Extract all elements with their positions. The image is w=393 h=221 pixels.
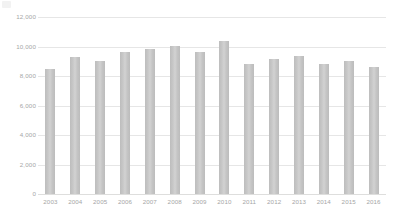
y-axis-tick-label: 0: [2, 191, 36, 197]
plot-area: [38, 17, 386, 194]
y-axis-tick-label: 2,000: [2, 162, 36, 168]
bar-chart: 12,00010,0008,0006,0004,0002,0000 200320…: [0, 0, 393, 221]
bar: [195, 52, 205, 194]
bars-layer: [38, 17, 386, 194]
y-axis-tick-label: 4,000: [2, 132, 36, 138]
y-axis-tick-label: 8,000: [2, 73, 36, 79]
bar: [95, 61, 105, 194]
corner-artifact-mark: [2, 1, 11, 8]
y-axis-tick-label: 12,000: [2, 14, 36, 20]
bar: [70, 57, 80, 194]
y-axis-tick-label: 10,000: [2, 44, 36, 50]
y-axis-tick-label: 6,000: [2, 103, 36, 109]
bar: [294, 56, 304, 194]
bar: [145, 49, 155, 194]
x-axis-tick-label: 2016: [359, 199, 389, 205]
bar: [170, 46, 180, 194]
bar: [369, 67, 379, 194]
bar: [269, 59, 279, 194]
bar: [244, 64, 254, 194]
bar: [45, 69, 55, 194]
bar: [120, 52, 130, 194]
bar: [219, 41, 229, 194]
bar: [344, 61, 354, 194]
gridline: [38, 194, 386, 195]
bar: [319, 64, 329, 194]
